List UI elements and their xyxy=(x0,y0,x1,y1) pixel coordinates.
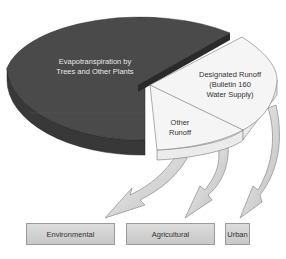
label-other-runoff: Other Runoff xyxy=(160,118,200,138)
label-line: (Bulletin 160 xyxy=(190,80,270,90)
destination-agricultural: Agricultural xyxy=(126,223,215,245)
label-line: Designated Runoff xyxy=(190,70,270,80)
pie-diagram xyxy=(0,0,286,259)
label-line: Other xyxy=(160,118,200,128)
label-line: Trees and Other Plants xyxy=(40,67,150,77)
label-evapotranspiration: Evapotranspiration by Trees and Other Pl… xyxy=(40,57,150,77)
label-designated-runoff: Designated Runoff (Bulletin 160 Water Su… xyxy=(190,70,270,100)
label-line: Runoff xyxy=(160,128,200,138)
destination-urban: Urban xyxy=(225,223,250,245)
label-line: Evapotranspiration by xyxy=(40,57,150,67)
destination-environmental: Environmental xyxy=(26,223,115,245)
label-line: Water Supply) xyxy=(190,90,270,100)
arrow-environmental xyxy=(105,152,190,218)
